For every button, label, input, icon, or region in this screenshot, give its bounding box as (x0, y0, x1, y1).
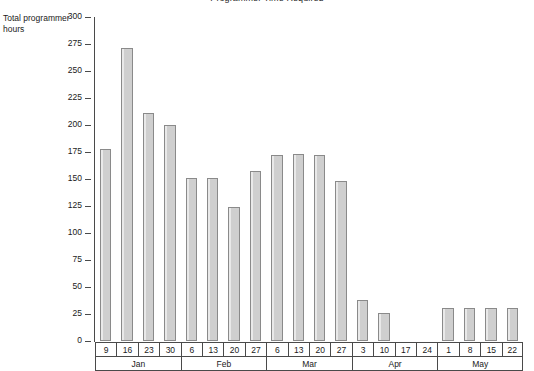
x-axis-month-cell: May (437, 357, 523, 371)
bar (378, 313, 390, 341)
x-axis-week-cell: 10 (373, 342, 394, 357)
x-axis-week-cell: 30 (159, 342, 180, 357)
y-axis-tick-label: 300 (68, 11, 82, 21)
bar (100, 149, 112, 341)
bar (271, 155, 283, 341)
y-axis-tick-mark (85, 287, 91, 288)
x-axis-week-cell: 22 (502, 342, 523, 357)
bar (207, 178, 219, 341)
x-axis-week-cell: 24 (416, 342, 437, 357)
chart-title: Programmer Time Required (0, 0, 534, 3)
y-axis-tick-mark (85, 44, 91, 45)
bar (335, 181, 347, 341)
y-axis-tick-label: 150 (68, 173, 82, 183)
y-axis-tick-label: 225 (68, 92, 82, 102)
x-axis-week-cell: 20 (223, 342, 244, 357)
y-axis-tick-mark (85, 233, 91, 234)
x-axis-month-cell: Jan (95, 357, 181, 371)
y-axis-tick-mark (85, 341, 91, 342)
y-axis-tick-label: 200 (68, 119, 82, 129)
x-axis-table: 9162330613202761320273101724181522 JanFe… (95, 342, 523, 371)
x-axis-week-cell: 17 (395, 342, 416, 357)
y-axis-tick-mark (85, 260, 91, 261)
bar (143, 113, 155, 341)
bar (250, 171, 262, 341)
y-axis-tick-label: 75 (73, 254, 82, 264)
x-axis-week-cell: 3 (352, 342, 373, 357)
plot-area (95, 17, 523, 341)
x-axis-week-cell: 8 (459, 342, 480, 357)
x-axis-week-cell: 9 (95, 342, 116, 357)
bar (186, 178, 198, 341)
y-axis-tick-mark (85, 206, 91, 207)
x-axis-week-cell: 20 (309, 342, 330, 357)
x-axis-week-cell: 16 (116, 342, 137, 357)
y-axis-tick-label: 0 (77, 335, 82, 345)
y-axis-tick-label: 100 (68, 227, 82, 237)
chart-canvas: Programmer Time Required Total programme… (0, 0, 534, 371)
bar (357, 300, 369, 341)
y-axis-tick-label: 250 (68, 65, 82, 75)
y-axis-tick-mark (85, 179, 91, 180)
x-axis-week-cell: 6 (181, 342, 202, 357)
bar (121, 48, 133, 341)
x-axis-week-cell: 27 (330, 342, 351, 357)
x-axis-week-cell: 15 (480, 342, 501, 357)
y-axis-tick-label: 50 (73, 281, 82, 291)
bar (293, 154, 305, 341)
x-axis-week-cell: 23 (138, 342, 159, 357)
bar (464, 308, 476, 341)
y-axis-tick-label: 25 (73, 308, 82, 318)
y-axis-tick-mark (85, 98, 91, 99)
y-axis-tick-mark (85, 314, 91, 315)
x-axis-month-row: JanFebMarAprMay (95, 357, 523, 371)
y-axis-tick-mark (85, 152, 91, 153)
x-axis-week-cell: 6 (266, 342, 287, 357)
y-axis-tick-label: 125 (68, 200, 82, 210)
x-axis-week-cell: 1 (437, 342, 458, 357)
x-axis-week-cell: 13 (202, 342, 223, 357)
bar (507, 308, 519, 341)
bar (164, 125, 176, 341)
bar (228, 207, 240, 341)
bar (314, 155, 326, 341)
x-axis-week-cell: 27 (245, 342, 266, 357)
x-axis-month-cell: Mar (266, 357, 352, 371)
y-axis-tick-mark (85, 71, 91, 72)
y-axis-tick-label: 175 (68, 146, 82, 156)
bar (485, 308, 497, 341)
y-axis-tick-label: 275 (68, 38, 82, 48)
x-axis-week-cell: 13 (288, 342, 309, 357)
y-axis-tick-mark (85, 125, 91, 126)
x-axis-month-cell: Apr (352, 357, 438, 371)
y-axis-tick-mark (85, 17, 91, 18)
bar (442, 308, 454, 341)
x-axis-week-row: 9162330613202761320273101724181522 (95, 342, 523, 357)
x-axis-month-cell: Feb (181, 357, 267, 371)
